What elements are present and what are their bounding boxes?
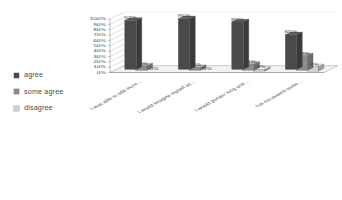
y-axis-tick-label: 100%	[90, 17, 107, 21]
legend-swatch-some-agree	[14, 89, 19, 94]
data-label: 92%	[124, 16, 137, 20]
data-label: 8%	[310, 62, 320, 66]
x-axis-category-label: I would imagine myself as…	[136, 79, 197, 114]
legend-swatch-agree	[14, 73, 19, 78]
y-axis-tick-label: 10%	[93, 65, 106, 69]
chart-legend: agree some agree disagree	[14, 71, 63, 112]
x-axis-category-label: I was able to add more…	[88, 79, 143, 110]
x-axis-category-label: I would ponder long and…	[193, 79, 251, 112]
data-label: 3%	[257, 65, 267, 69]
legend-item-agree[interactable]: agree	[14, 71, 63, 79]
y-axis-tick-label: 20%	[93, 60, 106, 64]
legend-item-disagree[interactable]: disagree	[14, 104, 63, 112]
y-axis-tick-label: 80%	[93, 28, 106, 32]
data-label: 0%	[150, 66, 160, 70]
data-label: 11%	[244, 60, 257, 64]
plot-area: 100%90%80%70%60%50%40%30%20%10%0% 0%8%92…	[88, 10, 338, 118]
y-axis-tick-label: 60%	[93, 38, 106, 42]
y-axis-tick-label: 40%	[93, 49, 106, 53]
chart-container: agree some agree disagree 100%90%80%70%6…	[0, 0, 342, 200]
data-label: 27%	[298, 51, 311, 55]
legend-label-some-agree: some agree	[24, 88, 63, 96]
y-axis-labels: 100%90%80%70%60%50%40%30%20%10%0%	[90, 17, 107, 75]
data-label: 0%	[203, 66, 213, 70]
bar-agree[interactable]	[178, 16, 195, 69]
legend-item-some-agree[interactable]: some agree	[14, 88, 63, 96]
data-label: 89%	[231, 17, 244, 21]
x-axis-category-label: I've excavated some…	[253, 79, 304, 108]
data-label: 5%	[192, 63, 202, 67]
chart-svg: 100%90%80%70%60%50%40%30%20%10%0% 0%8%92…	[88, 10, 338, 118]
x-axis-labels: I was able to add more…I would imagine m…	[88, 79, 304, 114]
y-axis-tick-label: 90%	[93, 22, 106, 26]
data-label: 65%	[284, 30, 297, 34]
data-label: 95%	[177, 14, 190, 18]
legend-label-disagree: disagree	[24, 104, 53, 112]
y-axis-tick-label: 30%	[93, 54, 106, 58]
y-axis-tick-label: 0%	[97, 70, 107, 74]
y-axis-tick-label: 50%	[93, 44, 106, 48]
legend-swatch-disagree	[14, 106, 19, 111]
y-axis-tick-label: 70%	[93, 33, 106, 37]
legend-label-agree: agree	[24, 71, 43, 79]
data-label: 8%	[139, 61, 149, 65]
